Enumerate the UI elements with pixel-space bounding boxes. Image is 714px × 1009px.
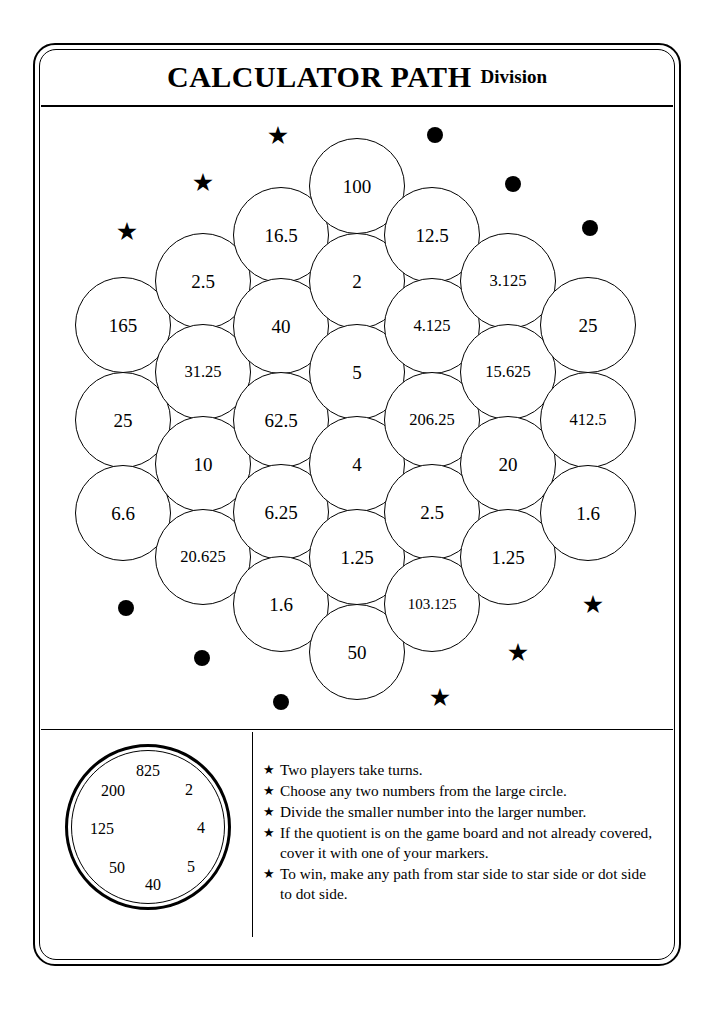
spinner-panel: 8252002125450540	[41, 732, 253, 937]
dot-marker-top-right	[582, 220, 598, 236]
rule-item: ★Choose any two numbers from the large c…	[263, 781, 659, 801]
page-title: CALCULATOR PATH	[167, 60, 471, 94]
rule-item: ★Two players take turns.	[263, 760, 659, 780]
worksheet-page: CALCULATOR PATH Division 165256.62.531.2…	[0, 0, 714, 1009]
board-circle[interactable]: 1.6	[540, 465, 636, 561]
star-bullet-icon: ★	[263, 781, 280, 801]
star-bullet-icon: ★	[263, 802, 280, 822]
rule-item: ★If the quotient is on the game board an…	[263, 823, 659, 863]
rule-item: ★Divide the smaller number into the larg…	[263, 802, 659, 822]
dot-marker-bottom-left	[194, 650, 210, 666]
star-bullet-icon: ★	[263, 864, 280, 884]
spinner-number: 4	[197, 819, 205, 837]
star-marker-bottom-right: ★	[507, 640, 529, 665]
board-circle[interactable]: 412.5	[540, 372, 636, 468]
dot-marker-bottom-left	[118, 600, 134, 616]
dot-marker-top-right	[427, 127, 443, 143]
star-marker-top-left: ★	[267, 123, 289, 148]
star-marker-bottom-right: ★	[429, 685, 451, 710]
star-bullet-icon: ★	[263, 823, 280, 843]
rule-text: If the quotient is on the game board and…	[280, 823, 659, 863]
spinner-number: 5	[187, 858, 195, 876]
rules-panel: ★Two players take turns.★Choose any two …	[253, 732, 673, 937]
dot-marker-bottom-left	[273, 694, 289, 710]
rule-item: ★To win, make any path from star side to…	[263, 864, 659, 904]
board-circle[interactable]: 25	[540, 277, 636, 373]
rule-text: Choose any two numbers from the large ci…	[280, 781, 567, 801]
star-marker-top-left: ★	[116, 219, 138, 244]
star-marker-top-left: ★	[192, 170, 214, 195]
spinner-number: 825	[136, 762, 160, 780]
spinner-number: 125	[90, 820, 114, 838]
rule-text: Two players take turns.	[280, 760, 423, 780]
rule-text: Divide the smaller number into the large…	[280, 802, 586, 822]
rule-text: To win, make any path from star side to …	[280, 864, 659, 904]
title-bar: CALCULATOR PATH Division	[39, 49, 675, 105]
page-subtitle: Division	[480, 66, 547, 88]
spinner-number: 2	[185, 781, 193, 799]
star-bullet-icon: ★	[263, 760, 280, 780]
star-marker-bottom-right: ★	[582, 592, 604, 617]
spinner-number: 50	[109, 859, 125, 877]
dot-marker-top-right	[505, 176, 521, 192]
spinner-number: 40	[145, 876, 161, 894]
game-board: 165256.62.531.251020.62516.54062.56.251.…	[41, 108, 673, 730]
spinner-number: 200	[101, 782, 125, 800]
title-divider	[41, 105, 673, 107]
